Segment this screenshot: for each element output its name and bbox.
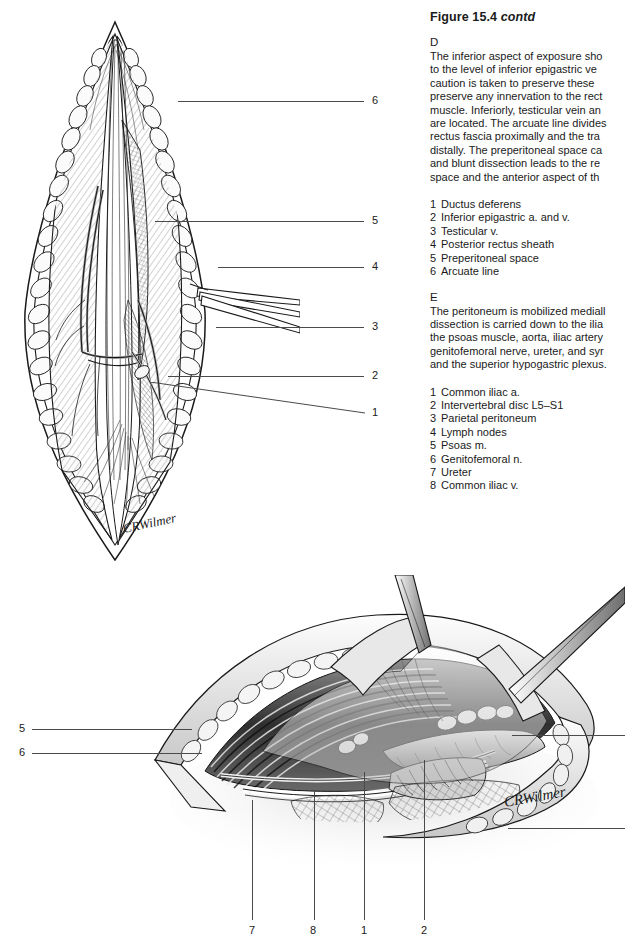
callout-e-2: 2 <box>421 925 427 936</box>
key-item: 5 Psoas m. <box>430 439 625 452</box>
key-item: 6 Arcuate line <box>430 265 625 278</box>
key-item: 6 Genitofemoral n. <box>430 453 625 466</box>
key-label: Arcuate line <box>441 265 499 278</box>
panel-d-paragraph: The inferior aspect of exposure sho to t… <box>430 50 625 184</box>
figure-title: Figure 15.4 contd <box>430 0 625 24</box>
key-label: Testicular v. <box>441 225 498 238</box>
key-label: Ureter <box>441 466 472 479</box>
illustration-panel-d: CRWilmer <box>0 0 300 580</box>
key-number: 2 <box>430 399 441 412</box>
key-label: Genitofemoral n. <box>441 453 522 466</box>
key-item: 3 Testicular v. <box>430 225 625 238</box>
key-item: 7 Ureter <box>430 466 625 479</box>
leader-line-d-4 <box>218 267 364 268</box>
leader-line-e-6 <box>32 753 202 754</box>
panel-letter-d: D <box>430 35 625 49</box>
panel-d-line-7: rectus fascia proximally and the tra <box>430 130 625 143</box>
key-number: 7 <box>430 466 441 479</box>
panel-d-line-3: caution is taken to preserve these <box>430 77 625 90</box>
callout-e-7: 7 <box>249 925 255 936</box>
callout-d-6: 6 <box>372 95 378 106</box>
key-number: 3 <box>430 412 441 425</box>
key-number: 6 <box>430 265 441 278</box>
key-item: 5 Preperitoneal space <box>430 252 625 265</box>
key-number: 4 <box>430 238 441 251</box>
key-item: 1 Common iliac a. <box>430 386 625 399</box>
panel-d-key-list: 1 Ductus deferens 2 Inferior epigastric … <box>430 198 625 278</box>
key-number: 4 <box>430 426 441 439</box>
key-label: Ductus deferens <box>441 198 521 211</box>
key-item: 4 Posterior rectus sheath <box>430 238 625 251</box>
panel-e-line-2: dissection is carried down to the ilia <box>430 318 625 331</box>
leader-line-d-5 <box>155 221 364 222</box>
panel-d-line-9: and blunt dissection leads to the re <box>430 157 625 170</box>
leader-line-d-6 <box>178 101 364 102</box>
key-number: 8 <box>430 479 441 492</box>
leader-line-d-2 <box>168 376 364 377</box>
leader-line-e-2 <box>424 760 425 920</box>
leader-line-e-7 <box>252 800 253 920</box>
callout-d-5: 5 <box>372 215 378 226</box>
panel-d-line-1: The inferior aspect of exposure sho <box>430 50 625 63</box>
key-label: Psoas m. <box>441 439 487 452</box>
panel-e-line-5: and the superior hypogastric plexus. <box>430 358 625 371</box>
leader-line-d-3 <box>216 327 364 328</box>
key-label: Preperitoneal space <box>441 252 539 265</box>
callout-e-5: 5 <box>19 723 25 734</box>
panel-d-line-10: space and the anterior aspect of th <box>430 171 625 184</box>
figure-title-main: Figure 15.4 <box>430 10 497 24</box>
callout-d-2: 2 <box>372 370 378 381</box>
figure-page: CRWilmer 6 5 4 3 2 1 <box>0 0 625 945</box>
panel-d-line-4: preserve any innervation to the rect <box>430 90 625 103</box>
panel-d-artwork: CRWilmer <box>0 0 300 580</box>
key-item: 8 Common iliac v. <box>430 479 625 492</box>
leader-line-e-5 <box>32 729 192 730</box>
key-number: 3 <box>430 225 441 238</box>
callout-d-3: 3 <box>372 321 378 332</box>
key-label: Common iliac v. <box>441 479 518 492</box>
key-number: 5 <box>430 439 441 452</box>
key-item: 1 Ductus deferens <box>430 198 625 211</box>
figure-text-column: Figure 15.4 contd D The inferior aspect … <box>430 0 625 570</box>
key-number: 2 <box>430 211 441 224</box>
figure-title-contd: contd <box>501 10 536 24</box>
leader-line-d-1-wrap <box>150 382 365 414</box>
leader-line-e-right-top <box>512 735 625 736</box>
panel-d-line-5: muscle. Inferiorly, testicular vein an <box>430 104 625 117</box>
key-label: Inferior epigastric a. and v. <box>441 211 570 224</box>
panel-e-artwork: CRWilmer <box>95 575 625 875</box>
key-item: 2 Intervertebral disc L5–S1 <box>430 399 625 412</box>
panel-e-line-1: The peritoneum is mobilized mediall <box>430 305 625 318</box>
panel-e-key-list: 1 Common iliac a. 2 Intervertebral disc … <box>430 386 625 493</box>
key-number: 5 <box>430 252 441 265</box>
callout-d-1: 1 <box>372 407 378 418</box>
key-item: 2 Inferior epigastric a. and v. <box>430 211 625 224</box>
key-label: Posterior rectus sheath <box>441 238 554 251</box>
panel-e-line-3: the psoas muscle, aorta, iliac artery <box>430 331 625 344</box>
panel-d-line-2: to the level of inferior epigastric ve <box>430 63 625 76</box>
callout-e-1: 1 <box>361 925 367 936</box>
key-number: 1 <box>430 386 441 399</box>
key-number: 6 <box>430 453 441 466</box>
leader-line-d-1 <box>150 382 365 414</box>
leader-line-e-1 <box>364 772 365 920</box>
illustration-panel-e: CRWilmer <box>95 575 625 875</box>
key-number: 1 <box>430 198 441 211</box>
panel-e-paragraph: The peritoneum is mobilized mediall diss… <box>430 305 625 372</box>
leader-line-e-right-bottom <box>508 828 625 829</box>
leader-line-e-8 <box>314 790 315 920</box>
key-item: 4 Lymph nodes <box>430 426 625 439</box>
key-label: Parietal peritoneum <box>441 412 536 425</box>
panel-letter-e: E <box>430 290 625 304</box>
callout-e-8: 8 <box>310 925 316 936</box>
key-item: 3 Parietal peritoneum <box>430 412 625 425</box>
panel-e-line-4: genitofemoral nerve, ureter, and syr <box>430 345 625 358</box>
callout-e-6: 6 <box>19 747 25 758</box>
key-label: Lymph nodes <box>441 426 507 439</box>
callout-d-4: 4 <box>372 261 378 272</box>
key-label: Common iliac a. <box>441 386 520 399</box>
panel-d-line-8: distally. The preperitoneal space ca <box>430 144 625 157</box>
key-label: Intervertebral disc L5–S1 <box>441 399 563 412</box>
panel-d-line-6: are located. The arcuate line divides <box>430 117 625 130</box>
